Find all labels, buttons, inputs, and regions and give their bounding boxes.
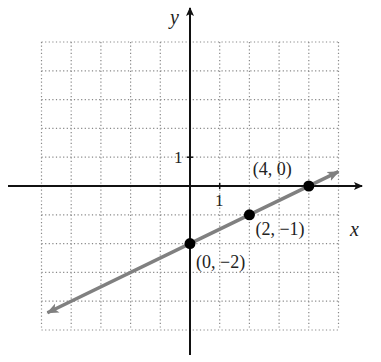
y-tick-label: 1 [174, 148, 183, 167]
coordinate-plane: (0, −2)(2, −1)(4, 0) x y 1 1 [0, 0, 381, 362]
data-point [303, 181, 314, 192]
point-label: (2, −1) [255, 219, 304, 240]
y-axis-label: y [168, 6, 179, 29]
point-label: (4, 0) [253, 159, 292, 180]
point-label: (0, −2) [196, 252, 245, 273]
x-tick-label: 1 [215, 191, 224, 210]
data-point [185, 238, 196, 249]
x-axis-label: x [349, 218, 359, 240]
data-point [244, 209, 255, 220]
line-segment [47, 242, 193, 313]
